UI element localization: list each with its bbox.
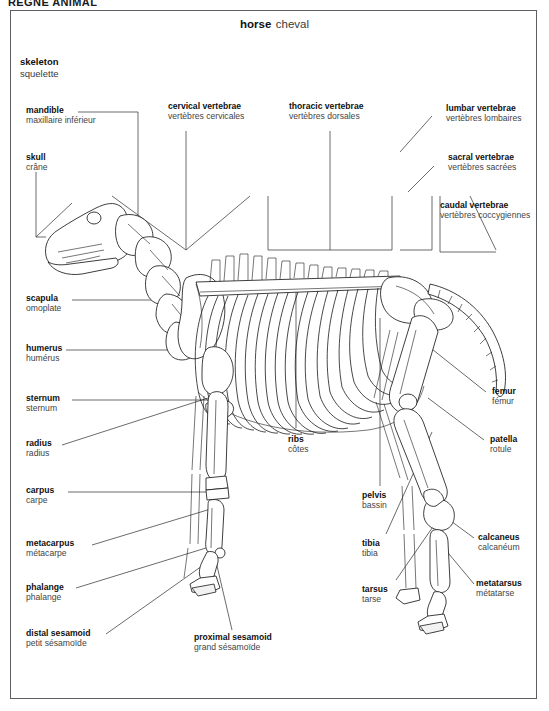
label-phalange: phalange phalange [26,582,64,603]
label-sacral-fr: vertèbres sacrées [448,162,516,172]
label-metacarpus: metacarpus métacarpe [26,538,74,559]
label-skull-fr: crâne [26,162,48,172]
label-metatarsus-fr: métatarse [476,588,522,598]
label-thoracic-en: thoracic vertebrae [289,101,364,111]
label-humerus-en: humerus [26,343,62,353]
page-header: RÈGNE ANIMAL [8,0,97,8]
label-pelvis-fr: bassin [362,500,387,510]
label-proximal-sesamoid-en: proximal sesamoid [194,632,272,642]
label-lumbar-en: lumbar vertebrae [446,103,521,113]
label-caudal-vertebrae: caudal vertebrae vertèbres coccygiennes [440,200,530,221]
label-lumbar-fr: vertèbres lombaires [446,113,521,123]
label-carpus-fr: carpe [26,495,54,505]
subtitle-fr: squelette [20,68,59,80]
label-femur-en: femur [492,386,516,396]
label-metatarsus-en: metatarsus [476,578,522,588]
label-phalange-fr: phalange [26,592,64,602]
label-skull-en: skull [26,152,48,162]
label-metatarsus: metatarsus métatarse [476,578,522,599]
label-proximal-sesamoid: proximal sesamoid grand sésamoïde [194,632,272,653]
label-thoracic-vertebrae: thoracic vertebrae vertèbres dorsales [289,101,364,122]
label-tarsus-fr: tarse [362,594,388,604]
label-cervical-vertebrae: cervical vertebrae vertèbres cervicales [168,101,244,122]
label-sacral-en: sacral vertebrae [448,152,516,162]
label-caudal-en: caudal vertebrae [440,200,530,210]
label-tarsus: tarsus tarse [362,584,388,605]
label-radius: radius radius [26,438,52,459]
label-patella-en: patella [490,434,517,444]
label-sternum: sternum sternum [26,393,60,414]
label-patella: patella rotule [490,434,517,455]
label-tibia: tibia tibia [362,538,380,559]
label-calcaneus-fr: calcanéum [478,542,520,552]
label-humerus: humerus humérus [26,343,62,364]
title-en: horse [240,18,271,30]
subtitle: skeleton squelette [20,56,59,80]
label-mandible-fr: maxillaire inférieur [26,115,96,125]
label-distal-sesamoid: distal sesamoid petit sésamoïde [26,628,90,649]
title-fr: cheval [276,18,309,30]
label-femur-fr: fémur [492,396,516,406]
label-ribs-en: ribs [288,434,309,444]
label-cervical-fr: vertèbres cervicales [168,111,244,121]
label-carpus-en: carpus [26,485,54,495]
label-ribs: ribs côtes [288,434,309,455]
label-sternum-en: sternum [26,393,60,403]
label-cervical-en: cervical vertebrae [168,101,244,111]
label-radius-fr: radius [26,448,52,458]
label-distal-sesamoid-fr: petit sésamoïde [26,638,90,648]
label-metacarpus-en: metacarpus [26,538,74,548]
label-metacarpus-fr: métacarpe [26,548,74,558]
label-tarsus-en: tarsus [362,584,388,594]
label-tibia-fr: tibia [362,548,380,558]
page-title: horse cheval [0,14,549,33]
label-lumbar-vertebrae: lumbar vertebrae vertèbres lombaires [446,103,521,124]
label-patella-fr: rotule [490,444,517,454]
label-thoracic-fr: vertèbres dorsales [289,111,364,121]
label-calcaneus-en: calcaneus [478,532,520,542]
label-sternum-fr: sternum [26,403,60,413]
label-caudal-fr: vertèbres coccygiennes [440,210,530,220]
label-carpus: carpus carpe [26,485,54,506]
label-distal-sesamoid-en: distal sesamoid [26,628,90,638]
label-radius-en: radius [26,438,52,448]
label-phalange-en: phalange [26,582,64,592]
subtitle-en: skeleton [20,56,59,68]
label-femur: femur fémur [492,386,516,407]
label-pelvis-en: pelvis [362,490,387,500]
label-proximal-sesamoid-fr: grand sésamoïde [194,642,272,652]
label-mandible-en: mandible [26,105,96,115]
label-sacral-vertebrae: sacral vertebrae vertèbres sacrées [448,152,516,173]
label-mandible: mandible maxillaire inférieur [26,105,96,126]
label-scapula-en: scapula [26,293,61,303]
label-tibia-en: tibia [362,538,380,548]
label-skull: skull crâne [26,152,48,173]
label-calcaneus: calcaneus calcanéum [478,532,520,553]
label-scapula: scapula omoplate [26,293,61,314]
label-ribs-fr: côtes [288,444,309,454]
label-humerus-fr: humérus [26,353,62,363]
label-scapula-fr: omoplate [26,303,61,313]
label-pelvis: pelvis bassin [362,490,387,511]
